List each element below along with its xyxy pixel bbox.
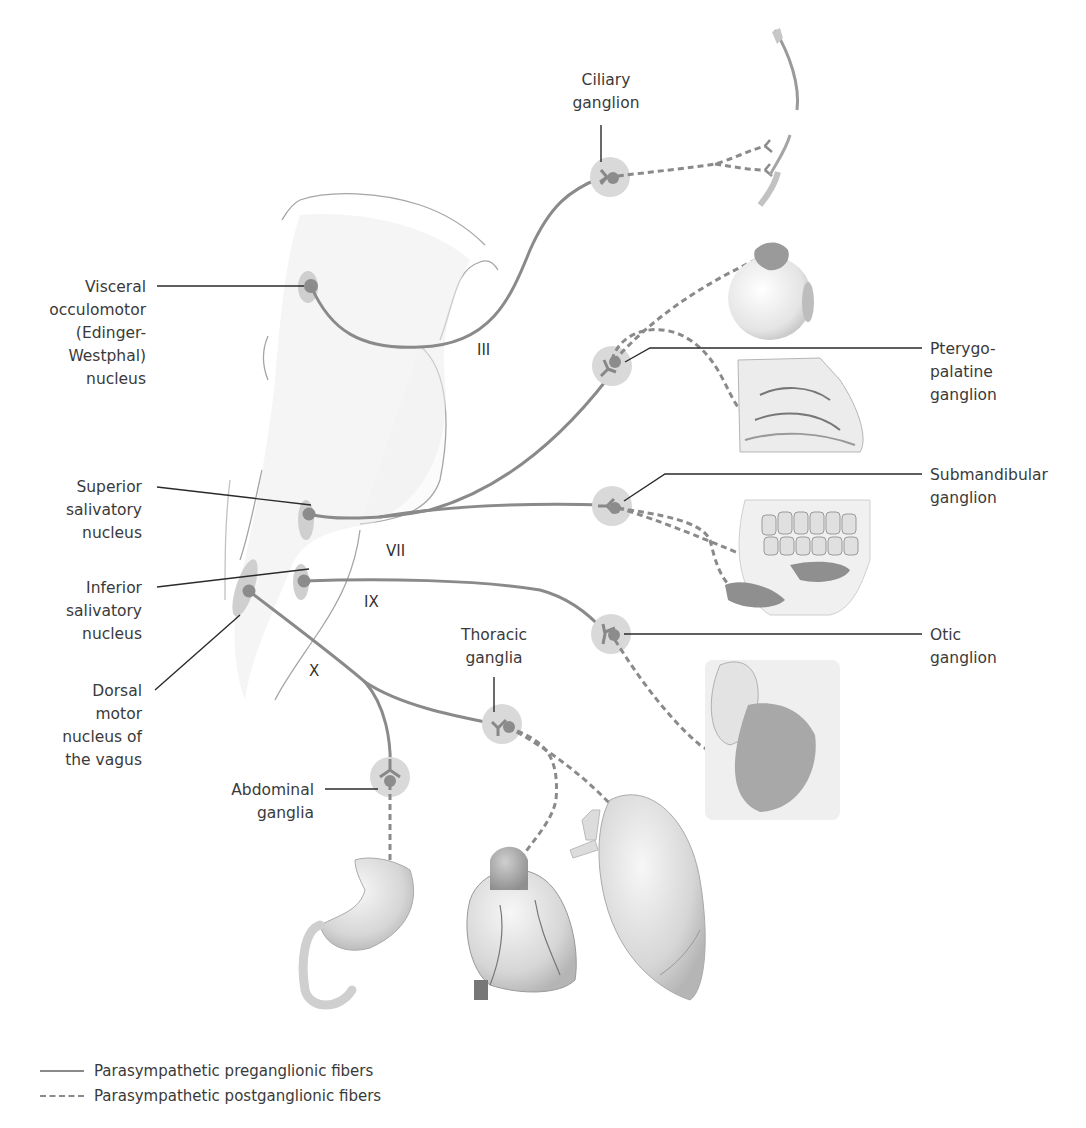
label-dorsal-vagus: Dorsal motor nucleus of the vagus: [62, 682, 142, 769]
svg-text:Superior: Superior: [76, 478, 142, 496]
heart-illustration: [467, 847, 576, 1000]
svg-text:Submandibular: Submandibular: [930, 466, 1049, 484]
svg-text:ganglion: ganglion: [930, 489, 997, 507]
svg-text:nucleus of: nucleus of: [62, 728, 142, 746]
svg-text:ganglion: ganglion: [930, 649, 997, 667]
label-pterygopalatine: Pterygo- palatine ganglion: [930, 340, 997, 404]
svg-text:Pterygo-: Pterygo-: [930, 340, 996, 358]
legend-item-preganglionic: Parasympathetic preganglionic fibers: [40, 1058, 381, 1083]
superior-salivatory-nucleus: [298, 500, 314, 540]
label-otic: Otic ganglion: [930, 626, 997, 667]
label-inferior-salivatory: Inferior salivatory nucleus: [66, 579, 143, 643]
svg-text:motor: motor: [95, 705, 142, 723]
svg-text:Thoracic: Thoracic: [460, 626, 527, 644]
ganglion-pterygopalatine: [592, 346, 632, 386]
label-ciliary: Ciliary ganglion: [573, 71, 640, 112]
label-edinger-westphal: Visceral occulomotor (Edinger- Westphal)…: [49, 278, 146, 388]
svg-text:salivatory: salivatory: [66, 501, 142, 519]
svg-text:salivatory: salivatory: [66, 602, 142, 620]
ganglion-submandibular: [592, 486, 632, 526]
svg-text:Westphal): Westphal): [68, 347, 146, 365]
svg-text:the vagus: the vagus: [65, 751, 142, 769]
label-abdominal: Abdominal ganglia: [231, 781, 314, 822]
svg-text:ganglion: ganglion: [573, 94, 640, 112]
fiber-cn10: [249, 591, 365, 682]
stomach-illustration: [303, 858, 413, 1005]
legend-label: Parasympathetic postganglionic fibers: [94, 1087, 381, 1105]
svg-text:(Edinger-: (Edinger-: [76, 324, 146, 342]
svg-text:ganglia: ganglia: [465, 649, 522, 667]
svg-text:palatine: palatine: [930, 363, 993, 381]
fiber-ciliary-upper: [618, 146, 765, 176]
eyeball-lacrimal-illustration: [728, 243, 814, 341]
svg-text:ganglia: ganglia: [257, 804, 314, 822]
lung-illustration: [570, 795, 705, 1000]
svg-text:Otic: Otic: [930, 626, 961, 644]
legend: Parasympathetic preganglionic fibers Par…: [40, 1058, 381, 1108]
svg-text:Dorsal: Dorsal: [92, 682, 142, 700]
legend-label: Parasympathetic preganglionic fibers: [94, 1062, 373, 1080]
svg-text:Abdominal: Abdominal: [231, 781, 314, 799]
ear-parotid-illustration: [705, 660, 840, 820]
brainstem-shading: [234, 214, 470, 700]
ganglion-thoracic: [482, 704, 522, 744]
dashed-line-swatch-icon: [40, 1095, 84, 1097]
svg-text:Inferior: Inferior: [86, 579, 143, 597]
eye-ciliary-illustration: [760, 28, 798, 205]
fiber-cn9: [304, 580, 605, 632]
leader-submandibular: [624, 474, 922, 501]
ganglion-abdominal: [370, 757, 410, 797]
svg-text:occulomotor: occulomotor: [49, 301, 146, 319]
cn-x-label: X: [309, 662, 319, 680]
label-submandibular: Submandibular ganglion: [930, 466, 1049, 507]
legend-item-postganglionic: Parasympathetic postganglionic fibers: [40, 1083, 381, 1108]
svg-text:nucleus: nucleus: [82, 625, 142, 643]
fiber-submandibular-subling: [618, 508, 735, 590]
svg-text:nucleus: nucleus: [82, 524, 142, 542]
nasal-cavity-illustration: [738, 358, 863, 452]
cn-iii-label: III: [477, 341, 490, 359]
label-superior-salivatory: Superior salivatory nucleus: [66, 478, 143, 542]
label-thoracic: Thoracic ganglia: [460, 626, 527, 667]
svg-text:nucleus: nucleus: [86, 370, 146, 388]
mandible-salivary-illustration: [725, 500, 870, 615]
svg-text:Ciliary: Ciliary: [582, 71, 631, 89]
svg-text:ganglion: ganglion: [930, 386, 997, 404]
fiber-ciliary-lower: [715, 164, 765, 170]
ganglion-ciliary: [590, 157, 630, 197]
svg-text:Visceral: Visceral: [85, 278, 146, 296]
cn-ix-label: IX: [364, 593, 379, 611]
leader-dorsal-vagus: [155, 615, 240, 690]
parasympathetic-diagram: Visceral occulomotor (Edinger- Westphal)…: [0, 0, 1086, 1050]
cn-vii-label: VII: [386, 542, 405, 560]
solid-line-swatch-icon: [40, 1070, 84, 1072]
